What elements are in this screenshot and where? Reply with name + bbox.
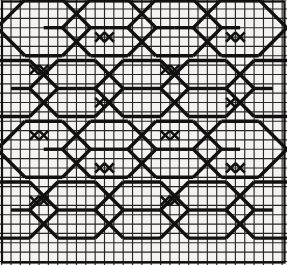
pattern-chart-root <box>0 0 287 265</box>
pattern-chart-svg <box>0 0 287 265</box>
